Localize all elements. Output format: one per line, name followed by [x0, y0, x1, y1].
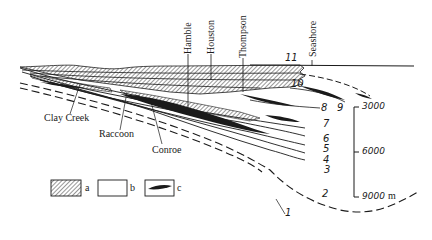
layer-number-3: 3 [324, 164, 330, 175]
layer-number-1: 1 [285, 207, 291, 218]
legend-swatch-b [98, 180, 127, 196]
layer-number-8: 8 [321, 102, 327, 113]
layer-number-6: 6 [323, 133, 329, 144]
legend-key-b: b [130, 182, 135, 193]
depth-unit: m [388, 190, 396, 201]
field-label-raccoon: Raccoon [99, 128, 134, 139]
legend-key-c: c [177, 182, 181, 193]
layer-number-10: 10 [291, 78, 304, 89]
well-label-houston: Houston [205, 20, 216, 54]
well-label-thompson: Thompson [237, 15, 248, 58]
field-label-clay-creek: Clay Creek [44, 112, 89, 123]
well-label-hamble: Hamble [182, 22, 193, 54]
layer-number-5: 5 [323, 143, 329, 154]
legend-key-a: a [85, 182, 89, 193]
layer-number-9: 9 [337, 102, 343, 113]
layer-number-4: 4 [323, 154, 329, 165]
layer-number-11: 11 [285, 52, 298, 63]
depth-tick-6000: 6000 [362, 146, 385, 156]
depth-tick-9000: 9000 [362, 191, 385, 201]
layer-number-2: 2 [322, 188, 328, 199]
legend-swatch-a [51, 180, 81, 196]
depth-tick-3000: 3000 [362, 101, 385, 111]
well-label-seashore: Seashore [307, 21, 318, 57]
cross-section-figure: Hamble Houston Thompson Seashore Clay Cr… [0, 0, 432, 240]
field-label-conroe: Conroe [152, 144, 181, 155]
layer-number-7: 7 [323, 118, 329, 129]
